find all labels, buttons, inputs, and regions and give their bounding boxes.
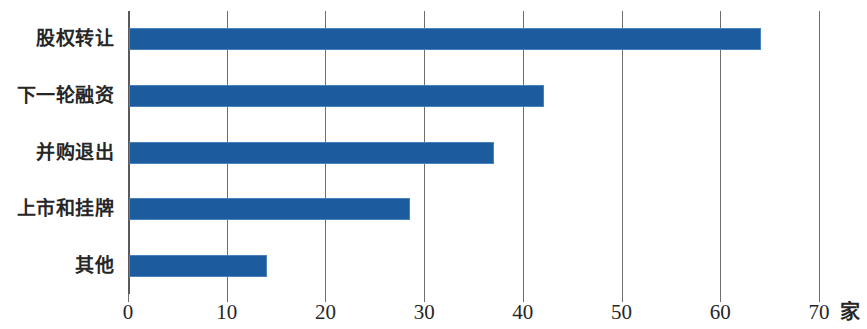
x-tick-label: 40 [493, 300, 553, 324]
x-tick-label: 60 [690, 300, 750, 324]
bar-chart: 股权转让下一轮融资并购退出上市和挂牌其他 家 010203040506070 [0, 0, 867, 329]
gridline [720, 11, 721, 294]
x-tick-label: 20 [295, 300, 355, 324]
category-label: 股权转让 [0, 28, 114, 50]
x-tick-label: 50 [592, 300, 652, 324]
category-label: 上市和挂牌 [0, 198, 114, 220]
x-tick-label: 30 [394, 300, 454, 324]
gridline [622, 11, 623, 294]
gridline [819, 11, 820, 294]
bar [129, 198, 410, 220]
x-tick-label: 70 [789, 300, 849, 324]
bar [129, 28, 761, 50]
x-tick-label: 10 [197, 300, 257, 324]
plot-area [128, 11, 819, 294]
bar [129, 85, 544, 107]
value-axis: 家 010203040506070 [0, 300, 867, 329]
x-tick-label: 0 [98, 300, 158, 324]
category-axis: 股权转让下一轮融资并购退出上市和挂牌其他 [0, 0, 122, 329]
category-label: 下一轮融资 [0, 85, 114, 107]
category-label: 其他 [0, 255, 114, 277]
category-label: 并购退出 [0, 142, 114, 164]
bar [129, 255, 267, 277]
bar [129, 142, 494, 164]
gridline [523, 11, 524, 294]
